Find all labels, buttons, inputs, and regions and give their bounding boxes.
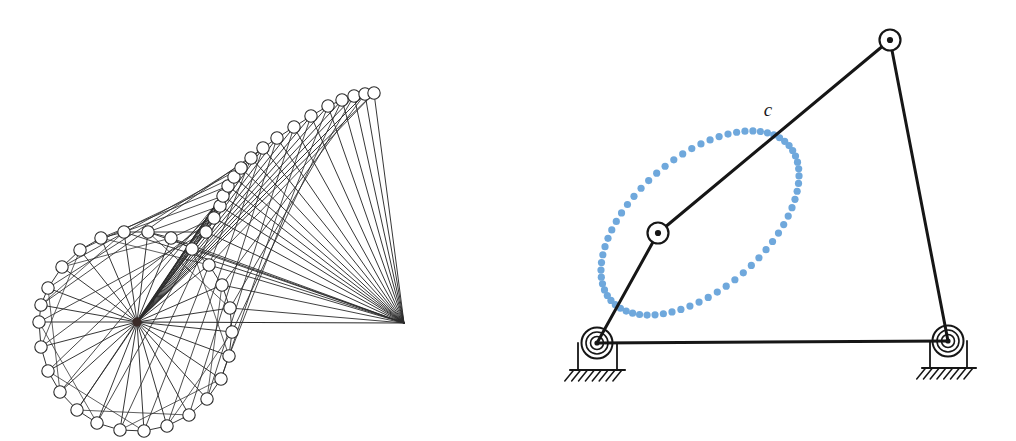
- coupler-curve-dot: [791, 196, 798, 203]
- coupler-curve-dot: [597, 267, 604, 274]
- top-pin-joint-center: [887, 37, 893, 43]
- trace-node: [42, 365, 54, 377]
- coupler-curve-dot: [741, 128, 748, 135]
- trace-node: [118, 226, 130, 238]
- coupler-curve-dot: [705, 294, 712, 301]
- coupler-curve-dot: [643, 311, 650, 318]
- coupler-curve-dot: [679, 150, 686, 157]
- coupler-curve-dot: [794, 159, 801, 166]
- coupler-curve-dot: [618, 209, 625, 216]
- trace-node: [42, 282, 54, 294]
- trace-node: [216, 279, 228, 291]
- coupler-curve-dot: [795, 180, 802, 187]
- figure-canvas: c: [0, 0, 1016, 441]
- trace-node: [322, 100, 334, 112]
- trace-node: [208, 212, 220, 224]
- coupler-curve-dot: [613, 218, 620, 225]
- coupler-curve-dot: [733, 129, 740, 136]
- coupler-curve-dot: [775, 229, 782, 236]
- coupler-curve-dot: [716, 133, 723, 140]
- trace-node: [35, 299, 47, 311]
- coupler-curve-dot: [608, 226, 615, 233]
- figure-root: c: [0, 0, 1016, 441]
- trace-node: [201, 393, 213, 405]
- coupler-curve-dot: [604, 235, 611, 242]
- ground-link: [597, 341, 948, 343]
- trace-node: [368, 87, 380, 99]
- coupler-curve-dot: [598, 259, 605, 266]
- trace-node: [114, 424, 126, 436]
- trace-node: [91, 417, 103, 429]
- coupler-curve-dot: [645, 177, 652, 184]
- coupler-curve-dot: [769, 238, 776, 245]
- coupler-curve-dot: [795, 165, 802, 172]
- trace-node: [186, 243, 198, 255]
- coupler-curve-dot: [795, 172, 802, 179]
- coupler-curve-dot: [723, 283, 730, 290]
- coupler-curve-dot: [706, 136, 713, 143]
- trace-node: [183, 409, 195, 421]
- coupler-curve-dot: [651, 311, 658, 318]
- trace-node: [74, 244, 86, 256]
- coupler-curve-dot: [599, 280, 606, 287]
- trace-node: [348, 90, 360, 102]
- coupler-curve-dot: [794, 188, 801, 195]
- trace-node: [226, 326, 238, 338]
- trace-node: [224, 302, 236, 314]
- coupler-curve-dot: [757, 128, 764, 135]
- trace-node: [35, 341, 47, 353]
- trace-node: [138, 425, 150, 437]
- coupler-curve-dot: [764, 129, 771, 136]
- coupler-curve-dot: [636, 311, 643, 318]
- coupler-curve-dot: [653, 170, 660, 177]
- trace-node: [235, 162, 247, 174]
- trace-node: [161, 420, 173, 432]
- coupler-curve-dot: [601, 243, 608, 250]
- coupler-curve-dot: [749, 127, 756, 134]
- coupler-curve-dot: [624, 201, 631, 208]
- coupler-curve-dot: [755, 254, 762, 261]
- trace-node: [257, 142, 269, 154]
- coupler-curve-dot: [670, 156, 677, 163]
- coupler-curve-dot: [660, 310, 667, 317]
- coupler-curve-dot: [601, 286, 608, 293]
- trace-node: [142, 226, 154, 238]
- trace-node: [95, 232, 107, 244]
- trace-node: [165, 232, 177, 244]
- coupler-curve-dot: [788, 204, 795, 211]
- coupler-curve-dot: [781, 138, 788, 145]
- coupler-curve-dot: [677, 306, 684, 313]
- trace-node: [203, 259, 215, 271]
- coupler-curve-dot: [780, 221, 787, 228]
- coupler-curve-dot: [695, 299, 702, 306]
- trace-node: [305, 110, 317, 122]
- coupler-curve-dot: [740, 269, 747, 276]
- coupler-curve-dot: [688, 145, 695, 152]
- coupler-curve-dot: [792, 152, 799, 159]
- trace-node: [271, 132, 283, 144]
- coupler-curve-dot: [668, 308, 675, 315]
- trace-node: [336, 94, 348, 106]
- trace-node: [200, 226, 212, 238]
- trace-node: [223, 350, 235, 362]
- trace-node: [54, 386, 66, 398]
- coupler-curve-dot: [629, 310, 636, 317]
- coupler-curve-dot: [686, 303, 693, 310]
- coupler-curve-dot: [762, 246, 769, 253]
- coupler-curve-dot: [697, 140, 704, 147]
- coupler-curve-dot: [748, 262, 755, 269]
- coupler-curve-dot: [731, 276, 738, 283]
- trace-node: [288, 121, 300, 133]
- coupler-curve-label: c: [764, 99, 773, 120]
- support-pivot-center: [594, 340, 599, 345]
- coupler-curve-dot: [785, 213, 792, 220]
- coupler-curve-dot: [637, 185, 644, 192]
- trace-node: [71, 404, 83, 416]
- coupler-mid-pin-joint-center: [655, 230, 661, 236]
- coupler-curve-dot: [598, 274, 605, 281]
- trace-node: [245, 152, 257, 164]
- trace-node: [56, 261, 68, 273]
- coupler-curve-dot: [724, 130, 731, 137]
- support-pivot-center: [945, 338, 950, 343]
- trace-node: [215, 373, 227, 385]
